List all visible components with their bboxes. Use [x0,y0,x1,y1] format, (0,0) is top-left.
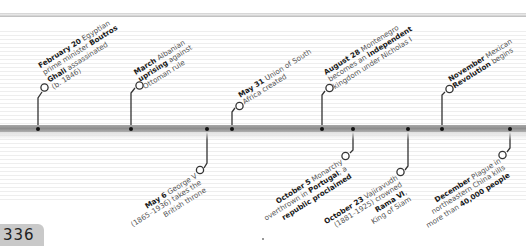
page-number: 336 [3,226,35,244]
center-mark [262,238,264,240]
